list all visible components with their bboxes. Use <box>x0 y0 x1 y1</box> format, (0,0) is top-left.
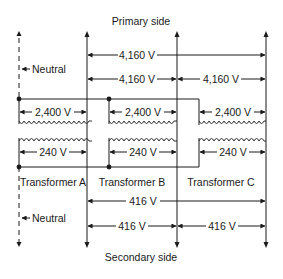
neutral-top-label: Neutral <box>32 63 66 75</box>
transformer-b-primary-voltage: 2,400 V <box>125 106 161 118</box>
transformer-wiring-diagram: Primary side Secondary side Neutral Neut… <box>0 0 283 279</box>
junction-dot <box>107 165 112 170</box>
transformer-a-secondary-voltage: 240 V <box>39 146 66 158</box>
neutral-top-arrow-icon <box>17 31 22 36</box>
phase-lines <box>85 31 269 248</box>
junction-dot <box>107 97 112 102</box>
transformer-c-label: Transformer C <box>187 176 255 188</box>
junction-dot <box>17 165 22 170</box>
primary-voltage-ab: 4,160 V <box>88 73 176 85</box>
primary-voltage-bc: 4,160 V <box>178 73 265 85</box>
transformer-a: 2,400 V 240 V Transformer A <box>19 106 92 188</box>
secondary-coil-icon <box>199 139 266 142</box>
transformer-b-label: Transformer B <box>99 176 166 188</box>
secondary-voltage-bc: 416 V <box>178 220 265 232</box>
transformer-b: 2,400 V 240 V Transformer B <box>99 106 177 188</box>
primary-coil-icon <box>199 121 266 124</box>
transformer-a-primary-voltage: 2,400 V <box>35 106 71 118</box>
secondary-coil-icon <box>109 139 177 142</box>
primary-side-title: Primary side <box>112 15 171 27</box>
svg-text:4,160 V: 4,160 V <box>119 73 155 85</box>
transformer-c-primary-voltage: 2,400 V <box>215 106 251 118</box>
svg-text:416 V: 416 V <box>118 220 145 232</box>
neutral-bottom-arrow-icon <box>17 242 22 247</box>
neutral-bottom-label: Neutral <box>32 212 66 224</box>
junction-dot <box>17 97 22 102</box>
primary-coil-icon <box>109 121 177 124</box>
svg-text:416 V: 416 V <box>129 195 156 207</box>
secondary-side-title: Secondary side <box>105 251 178 263</box>
transformer-b-secondary-voltage: 240 V <box>129 146 156 158</box>
primary-coil-icon <box>19 121 92 124</box>
transformer-c-secondary-voltage: 240 V <box>219 146 246 158</box>
svg-text:4,160 V: 4,160 V <box>203 73 239 85</box>
svg-text:4,160 V: 4,160 V <box>119 49 155 61</box>
transformer-a-label: Transformer A <box>20 176 86 188</box>
secondary-coil-icon <box>19 139 92 142</box>
svg-text:416 V: 416 V <box>208 220 235 232</box>
secondary-voltage-ab: 416 V <box>88 220 176 232</box>
